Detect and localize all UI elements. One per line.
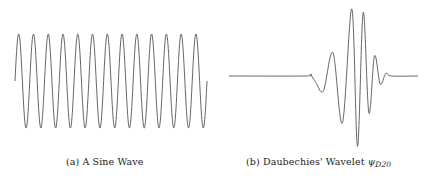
wavelet-line: [229, 9, 418, 146]
figure-panel-wavelet: (b) Daubechies' Wavelet ψD20: [215, 0, 430, 182]
caption-wavelet: (b) Daubechies' Wavelet ψD20: [246, 156, 391, 169]
wavelet-plot: [215, 0, 430, 160]
caption-sine-wave: (a) A Sine Wave: [66, 156, 143, 167]
figure-panel-sine: (a) A Sine Wave: [0, 0, 215, 182]
psi-subscript: D20: [375, 160, 391, 169]
sine-wave-plot: [0, 0, 215, 150]
caption-wavelet-text: (b) Daubechies' Wavelet: [246, 156, 368, 167]
sine-wave-line: [15, 34, 207, 128]
